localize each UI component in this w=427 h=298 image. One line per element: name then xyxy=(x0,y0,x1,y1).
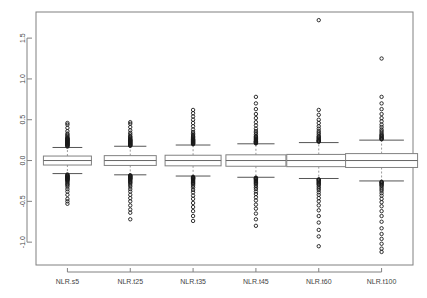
outlier-point xyxy=(254,212,257,215)
x-axis-tick-label: NLR.s5 xyxy=(56,278,79,285)
outlier-point xyxy=(380,227,383,230)
outlier-point xyxy=(129,204,132,207)
outlier-point xyxy=(317,245,320,248)
x-axis-tick-label: NLR.t100 xyxy=(367,278,397,285)
outlier-point xyxy=(191,219,194,222)
outlier-point xyxy=(380,102,383,105)
y-axis-tick-label: -0.5 xyxy=(19,195,26,207)
x-axis-tick-label: NLR.t25 xyxy=(117,278,143,285)
outlier-point xyxy=(254,207,257,210)
outlier-point xyxy=(254,224,257,227)
x-axis-tick-label: NLR.t60 xyxy=(306,278,332,285)
outlier-point xyxy=(380,214,383,217)
boxplot-figure: 1.51.00.50.0-0.5-1.0NLR.s5NLR.t25NLR.t35… xyxy=(0,0,427,298)
outlier-point xyxy=(317,214,320,217)
outlier-point xyxy=(380,237,383,240)
outlier-point xyxy=(380,205,383,208)
outlier-point xyxy=(317,108,320,111)
plot-frame xyxy=(36,12,413,265)
outlier-point xyxy=(191,201,194,204)
outlier-point xyxy=(380,112,383,115)
outlier-point xyxy=(254,203,257,206)
outlier-point xyxy=(317,209,320,212)
outlier-point xyxy=(254,102,257,105)
y-axis-tick-label: 1.0 xyxy=(19,74,26,84)
outlier-point xyxy=(254,95,257,98)
outlier-point xyxy=(380,95,383,98)
outlier-point xyxy=(129,218,132,221)
outlier-point xyxy=(254,112,257,115)
outlier-point xyxy=(191,205,194,208)
outlier-point xyxy=(254,107,257,110)
outlier-point xyxy=(380,209,383,212)
x-axis-tick-label: NLR.t35 xyxy=(180,278,206,285)
outlier-point xyxy=(317,235,320,238)
outlier-point xyxy=(380,220,383,223)
outlier-point xyxy=(317,113,320,116)
chart-canvas: 1.51.00.50.0-0.5-1.0NLR.s5NLR.t25NLR.t35… xyxy=(0,0,427,298)
outlier-point xyxy=(317,228,320,231)
outlier-point xyxy=(254,218,257,221)
outlier-point xyxy=(317,221,320,224)
outlier-point xyxy=(191,209,194,212)
outlier-point xyxy=(317,204,320,207)
y-axis-tick-label: 0.0 xyxy=(19,156,26,166)
outlier-point xyxy=(254,116,257,119)
outlier-point xyxy=(191,214,194,217)
y-axis-tick-label: 1.5 xyxy=(19,33,26,43)
y-axis-tick-label: 0.5 xyxy=(19,115,26,125)
x-axis-tick-label: NLR.t45 xyxy=(243,278,269,285)
outlier-point xyxy=(380,232,383,235)
outlier-point xyxy=(380,57,383,60)
outlier-point xyxy=(380,242,383,245)
outlier-point xyxy=(317,18,320,21)
y-axis-tick-label: -1.0 xyxy=(19,236,26,248)
outlier-point xyxy=(380,107,383,110)
